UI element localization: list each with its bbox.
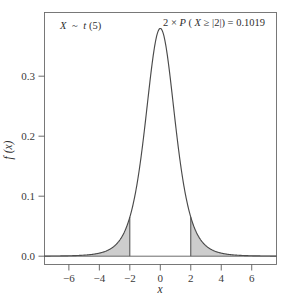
x-tick-label--4: −4: [93, 272, 105, 284]
probability-open-paren: (: [188, 17, 192, 29]
t-distribution-plot: −6−4−20246 0.00.10.20.3 x f (x) X ~ t (5…: [0, 0, 288, 298]
distribution-family: t: [83, 20, 87, 31]
distribution-df: (5): [89, 20, 102, 32]
y-tick-label-0.3: 0.3: [21, 70, 35, 82]
probability-value: 0.1019: [236, 17, 265, 28]
probability-variable: X: [194, 17, 202, 28]
plot-frame: [45, 13, 277, 265]
x-tick-label-4: 4: [218, 272, 224, 284]
distribution-annotation: X ~ t (5): [59, 20, 102, 32]
y-tick-label-0.0: 0.0: [21, 250, 35, 262]
x-tick-label--6: −6: [63, 272, 75, 284]
x-tick-label-6: 6: [249, 272, 255, 284]
probability-p-symbol: P: [178, 17, 186, 28]
chart-figure: −6−4−20246 0.00.10.20.3 x f (x) X ~ t (5…: [0, 0, 288, 298]
y-tick-label-0.2: 0.2: [21, 130, 35, 142]
distribution-tilde: ~: [72, 20, 78, 31]
distribution-variable: X: [59, 20, 67, 31]
probability-annotation: 2 × P ( X ≥ |2|) = 0.1019: [163, 17, 265, 29]
y-tick-label-0.1: 0.1: [21, 190, 35, 202]
probability-relation: ≥ |2|) =: [204, 17, 237, 29]
x-axis-title: x: [156, 283, 163, 295]
x-tick-label--2: −2: [124, 272, 136, 284]
y-axis-title: f (x): [2, 140, 15, 159]
x-tick-label-2: 2: [188, 272, 194, 284]
probability-prefix: 2 ×: [163, 17, 179, 28]
